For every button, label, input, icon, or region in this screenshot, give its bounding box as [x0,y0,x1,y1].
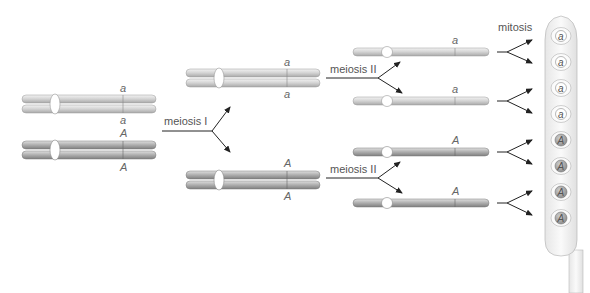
meiosis2-product: A [353,185,489,209]
allele-label: A [451,185,459,197]
cell-allele: A [557,161,565,172]
cell: a [551,28,571,45]
cell: a [551,80,571,97]
meiosis2-arrow-bottom: meiosis II [326,162,402,193]
allele-label: a [452,83,458,95]
cell: a [551,54,571,71]
allele-label: A [283,190,291,202]
cell: A [551,132,571,149]
allele-label: a [452,34,458,46]
cell: A [551,158,571,175]
meiosis1-arrow: meiosis I [162,107,230,152]
cell: A [551,184,571,201]
centromere-icon [382,47,393,58]
centromere-icon [382,96,393,107]
meiosis-diagram: a a A A meiosis I a a A A meio [0,0,590,293]
allele-label: a [284,56,290,68]
meiosis1-product-lower: A A [186,157,320,202]
meiosis2-arrow-top: meiosis II [326,62,402,93]
stalk [569,250,583,293]
cell: a [551,106,571,123]
meiosis1-product-upper: a a [186,56,320,100]
cell-allele: A [557,187,565,198]
centromere-icon [382,198,393,209]
centromere-icon [214,68,224,88]
allele-label: A [283,157,291,169]
parent-pair-a: a a [22,82,156,126]
meiosis2-label: meiosis II [330,163,376,175]
cell-allele: a [558,109,564,120]
allele-label: A [451,134,459,146]
allele-label: a [284,88,290,100]
centromere-icon [214,170,224,190]
centromere-icon [50,94,60,114]
centromere-icon [50,140,60,160]
mitosis-arrows [497,40,532,215]
allele-label: a [120,114,126,126]
cell-allele: a [558,57,564,68]
meiosis2-product: a [353,83,489,107]
centromere-icon [382,147,393,158]
mitosis-label: mitosis [498,21,533,33]
meiosis2-label: meiosis II [330,63,376,75]
parent-pair-A: A A [22,127,156,173]
allele-label: A [119,161,127,173]
meiosis1-label: meiosis I [164,115,207,127]
meiosis2-product: A [353,134,489,158]
cell-allele: A [557,213,565,224]
allele-label: A [119,127,127,139]
allele-label: a [120,82,126,94]
cell: A [551,210,571,227]
cell-allele: a [558,31,564,42]
cell-allele: a [558,83,564,94]
cell-allele: A [557,135,565,146]
meiosis2-product: a [353,34,489,58]
